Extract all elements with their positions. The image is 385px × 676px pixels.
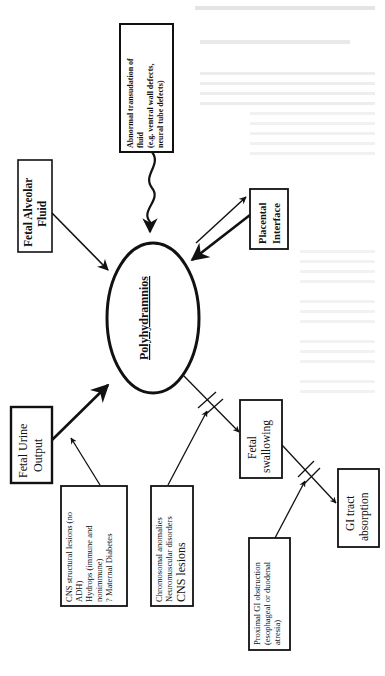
node-gi-line: absorption xyxy=(358,492,371,541)
node-transudation-line: Abnormal transudation of xyxy=(126,58,135,148)
edge-chromosomal-arrow xyxy=(168,411,207,485)
node-transudation-line: fluid xyxy=(136,131,145,148)
diagram-page: Polyhydramnios Abnormal transudation of … xyxy=(0,0,385,676)
node-urine-line: Output xyxy=(31,438,45,472)
node-cns-line: CNS structural lesions (no xyxy=(64,512,74,602)
node-cns-line: nonimmune) xyxy=(94,558,104,602)
node-proximal-line: atresia) xyxy=(272,620,282,645)
edge-ellipse-to-swallowing-arrow xyxy=(181,373,239,432)
node-placental-interface: Placental Interface xyxy=(250,189,288,249)
node-cns-line: Hydrops (immune and xyxy=(84,525,94,602)
node-transudation: Abnormal transudation of fluid (e.g. ven… xyxy=(120,24,173,152)
edge-swallowing-to-gi-arrow xyxy=(282,445,336,503)
block-mark xyxy=(298,461,314,477)
edge-cns-structural-arrow xyxy=(71,438,100,485)
node-gi-absorption: GI tract absorption xyxy=(338,469,379,547)
edge-interface-to-ellipse-arrow xyxy=(192,215,250,260)
node-chromosomal-line: CNS lesions xyxy=(174,542,188,602)
center-label: Polyhydramnios xyxy=(137,276,151,360)
node-alveolar-line: Fluid xyxy=(36,200,48,227)
node-alveolar-line: Fetal Alveolar xyxy=(22,178,34,247)
node-swallowing-line: swallowing xyxy=(260,420,273,473)
center-node-polyhydramnios: Polyhydramnios xyxy=(107,243,199,393)
node-chromosomal: Chromosomal anomalies Neuromuscular diso… xyxy=(148,486,193,606)
node-cns-line: ADH) xyxy=(74,581,84,602)
edge-urine-arrow xyxy=(52,385,108,440)
node-alveolar-fluid: Fetal Alveolar Fluid xyxy=(18,160,52,252)
node-cns-structural: CNS structural lesions (no ADH) Hydrops … xyxy=(61,486,127,606)
node-transudation-line: neural tube defects) xyxy=(156,80,165,148)
node-proximal-gi: Proximal GI obstruction (esophageal or d… xyxy=(249,538,290,650)
polyhydramnios-diagram: Polyhydramnios Abnormal transudation of … xyxy=(0,0,385,676)
node-chromosomal-line: Neuromuscular disorders xyxy=(164,516,174,602)
node-fetal-urine: Fetal Urine Output xyxy=(11,407,52,483)
node-cns-line: ? Maternal Diabetes xyxy=(104,534,114,602)
edge-transudation-wavy-arrow xyxy=(147,152,155,232)
node-transudation-line: (e.g. ventral wall defects, xyxy=(146,64,155,148)
node-proximal-line: (esophageal or duodenal xyxy=(262,561,272,645)
node-placental-line: Placental xyxy=(257,203,268,244)
edge-alveolar-arrow xyxy=(52,213,108,270)
node-gi-line: GI tract xyxy=(344,495,356,531)
edge-proximal-gi-arrow xyxy=(275,481,305,538)
node-proximal-line: Proximal GI obstruction xyxy=(252,562,262,645)
node-chromosomal-line: Chromosomal anomalies xyxy=(154,517,164,602)
node-fetal-swallowing: Fetal swallowing xyxy=(240,400,282,478)
node-urine-line: Fetal Urine xyxy=(16,424,30,478)
node-placental-line: Interface xyxy=(271,203,282,244)
node-swallowing-line: Fetal xyxy=(246,436,258,459)
